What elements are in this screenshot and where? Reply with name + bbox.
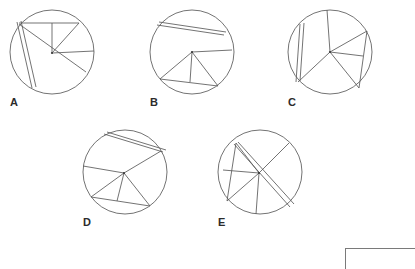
circle-figure-b-drawing [144,4,240,100]
segment-e-chord-doubled-b [238,142,294,204]
segment-e-radius-upper-left [236,143,259,173]
circle-figure-d-drawing [77,124,173,220]
segment-c-radius-lower-left [298,52,330,82]
circle-figure-e-drawing [212,124,308,220]
circle-figure-a-drawing [4,4,100,100]
hub-point-d [123,172,125,174]
segment-c-chord-doubled-a [296,24,300,82]
hub-point-a [51,52,53,54]
segment-d-chord-doubled-a [104,134,163,152]
segment-c-radius-lower-right [330,52,359,88]
segment-e-radius-upper-right [259,143,289,173]
segment-d-radius-lower-right [124,173,150,206]
segment-e-chord-doubled-a [234,144,290,207]
segment-c-radius-upper-right [330,31,367,52]
segment-c-radius-up [327,10,330,52]
figure-label-d: D [83,216,91,228]
hub-point-b [191,51,193,53]
figure-label-b: B [150,96,158,108]
hub-point-c [329,51,331,53]
circle-figure-c [282,4,378,100]
corner-frame [345,248,415,269]
segment-e-radius-lower-left [227,173,259,201]
segment-d-chord-bottom [91,197,150,206]
segment-c-chord-right-vertical [359,31,367,88]
segment-e-radius-left [223,170,259,173]
segment-b-radius-down [190,52,192,82]
circle-figure-e [212,124,308,220]
hub-point-e [258,172,260,174]
segment-a-chord-upper-left-long [19,24,86,72]
figure-label-c: C [288,96,296,108]
segment-d-radius-upper-right-long [124,151,161,173]
segment-c-chord-doubled-b [300,23,304,81]
segment-d-radius-left [83,166,124,173]
segment-b-radius-lower-right [192,52,218,86]
segment-c-radius-right [330,52,363,56]
figure-label-e: E [218,216,226,228]
segment-b-chord-bottom [160,79,218,86]
circle-figure-d [77,124,173,220]
circle-figure-b [144,4,240,100]
segment-a-radius-upper-right [52,23,79,53]
figure-label-a: A [10,96,18,108]
circle-figure-a [4,4,100,100]
segment-b-chord-lower-left [160,52,192,79]
segment-e-chord-left-vertical [227,143,236,201]
segment-e-radius-down [256,173,259,214]
segment-d-chord-doubled-b [107,132,166,150]
segment-b-radius-right [192,50,232,52]
circle-figure-c-drawing [282,4,378,100]
